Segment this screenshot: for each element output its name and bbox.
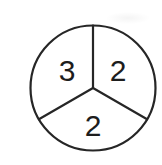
sector-label-right: 2 [110,54,127,87]
figure-canvas: 3 2 2 [0,0,162,165]
sector-label-bottom: 2 [85,109,102,142]
sector-circle-diagram: 3 2 2 [0,0,162,165]
sector-label-left: 3 [59,54,76,87]
